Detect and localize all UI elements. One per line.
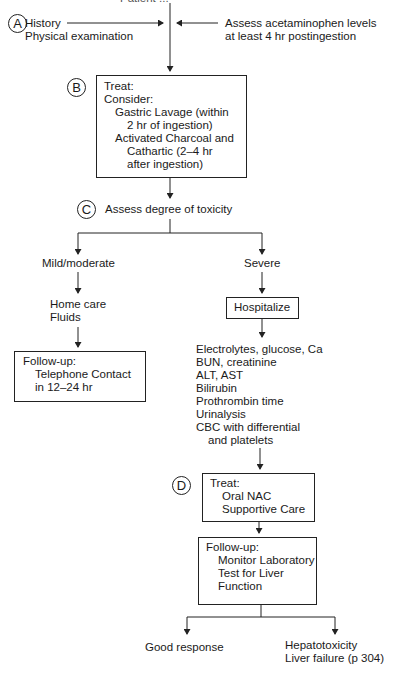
good-response-text: Good response xyxy=(145,641,224,654)
physical-exam-text: Physical examination xyxy=(25,30,133,43)
severe-label: Severe xyxy=(244,257,280,270)
oral-nac-text: Oral NAC xyxy=(222,490,271,503)
history-text: History xyxy=(25,17,61,30)
gastric-lavage-timing: 2 hr of ingestion) xyxy=(127,119,213,132)
treat-label: Treat: xyxy=(104,80,134,93)
mild-moderate-label: Mild/moderate xyxy=(42,257,115,270)
lab-platelets: and platelets xyxy=(208,434,273,447)
hospitalize-text: Hospitalize xyxy=(234,301,290,314)
followup-d-label: Follow-up: xyxy=(206,541,259,554)
cathartic-text: Cathartic (2–4 hr xyxy=(127,145,213,158)
lab-alt-ast: ALT, AST xyxy=(196,369,243,382)
step-b-marker: B xyxy=(67,78,86,97)
liver-failure-text: Liver failure (p 304) xyxy=(285,652,384,665)
telephone-contact-text: Telephone Contact xyxy=(35,368,131,381)
function-text: Function xyxy=(218,580,262,593)
liver-test-text: Test for Liver xyxy=(218,567,284,580)
hepatotoxicity-text: Hepatotoxicity xyxy=(285,639,357,652)
monitor-lab-text: Monitor Laboratory xyxy=(218,554,315,567)
lab-bilirubin: Bilirubin xyxy=(196,382,237,395)
fluids-text: Fluids xyxy=(50,311,81,324)
contact-timing-text: in 12–24 hr xyxy=(35,381,93,394)
supportive-care-text: Supportive Care xyxy=(222,503,305,516)
followup-label: Follow-up: xyxy=(23,355,76,368)
treat-d-label: Treat: xyxy=(210,477,240,490)
lab-cbc: CBC with differential xyxy=(196,421,300,434)
lab-electrolytes: Electrolytes, glucose, Ca xyxy=(196,343,323,356)
assess-levels-text: Assess acetaminophen levels xyxy=(225,17,377,30)
lab-prothrombin: Prothrombin time xyxy=(196,395,284,408)
step-d-marker: D xyxy=(172,476,191,495)
assess-timing-text: at least 4 hr postingestion xyxy=(225,30,356,43)
consider-label: Consider: xyxy=(104,93,153,106)
gastric-lavage-text: Gastric Lavage (within xyxy=(115,106,229,119)
home-care-text: Home care xyxy=(50,298,106,311)
assess-toxicity-text: Assess degree of toxicity xyxy=(105,203,232,216)
lab-bun: BUN, creatinine xyxy=(196,356,277,369)
step-c-marker: C xyxy=(77,200,96,219)
lab-urinalysis: Urinalysis xyxy=(196,408,246,421)
cathartic-timing: after ingestion) xyxy=(127,158,203,171)
charcoal-text: Activated Charcoal and xyxy=(115,132,234,145)
